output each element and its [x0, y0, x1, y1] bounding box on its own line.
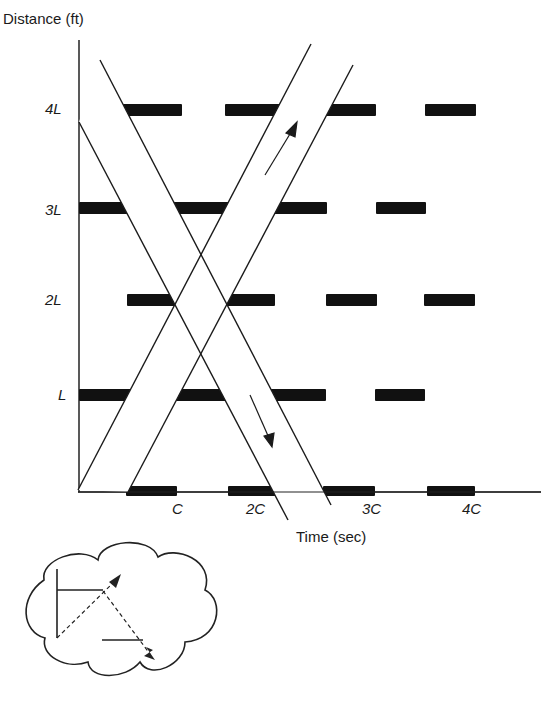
red-bar-4L [425, 104, 476, 116]
red-bar-2L [326, 294, 377, 306]
y-tick-L: L [58, 386, 66, 403]
y-tick-3L: 3L [45, 201, 62, 218]
time-space-diagram: Distance (ft) Time (sec) 4L 3L 2L L C 2C… [0, 0, 559, 702]
red-bar-0 [323, 486, 375, 496]
x-tick-2C: 2C [245, 500, 265, 517]
red-bar-2L [424, 294, 475, 306]
y-axis-title: Distance (ft) [3, 10, 84, 27]
red-bar-3L [79, 202, 327, 214]
red-bar-L [79, 389, 326, 401]
red-bar-L [375, 389, 425, 401]
inset-dashed-up [57, 580, 116, 638]
y-tick-4L: 4L [45, 100, 62, 117]
red-bar-0 [228, 486, 276, 496]
red-bar-4L [122, 104, 182, 116]
x-tick-C: C [172, 500, 183, 517]
y-tick-labels: 4L 3L 2L L [44, 100, 66, 403]
x-tick-3C: 3C [362, 500, 381, 517]
cloud-inset [26, 543, 217, 676]
x-axis-title: Time (sec) [296, 528, 366, 545]
red-bar-0 [427, 486, 475, 496]
red-bar-0 [126, 486, 177, 496]
y-tick-2L: 2L [44, 291, 62, 308]
inset-dashed-down [103, 591, 150, 654]
inset-arrow-up-icon [109, 574, 121, 588]
x-tick-4C: 4C [462, 500, 481, 517]
red-bar-3L [376, 202, 426, 214]
cloud-outline [26, 543, 217, 676]
